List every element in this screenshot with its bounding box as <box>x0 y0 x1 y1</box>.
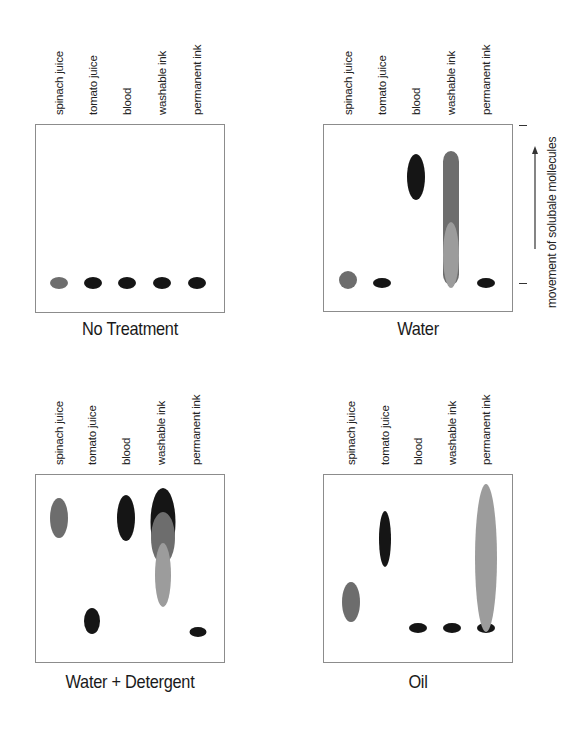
spot-permanent-ink <box>477 278 495 288</box>
spot-spinach-juice <box>339 271 357 289</box>
spot-spinach-juice <box>342 582 360 622</box>
spot-permanent-ink <box>188 277 206 289</box>
spot-blood <box>118 277 136 289</box>
spot-permanent-ink <box>190 627 207 637</box>
spot-washable-ink <box>443 623 461 633</box>
spot-washable-ink <box>153 277 171 289</box>
axis-label: movement of solubale mollecules <box>545 137 559 308</box>
spot-tomato-juice <box>373 278 391 288</box>
spot-spinach-juice <box>50 277 68 289</box>
spot-tomato-juice <box>84 608 100 634</box>
spot-blood <box>117 495 135 541</box>
spot-blood <box>407 154 425 200</box>
spot-spinach-juice <box>50 498 68 538</box>
axis-tick-bottom <box>519 283 527 284</box>
spot-blood <box>409 623 427 633</box>
spots-layer <box>0 0 587 733</box>
spot-washable-ink <box>155 543 171 607</box>
spot-permanent-ink <box>475 484 497 632</box>
axis-tick-top <box>519 125 527 126</box>
spot-tomato-juice <box>379 511 391 567</box>
spot-tomato-juice <box>84 277 102 289</box>
spot-washable-ink <box>443 222 459 288</box>
